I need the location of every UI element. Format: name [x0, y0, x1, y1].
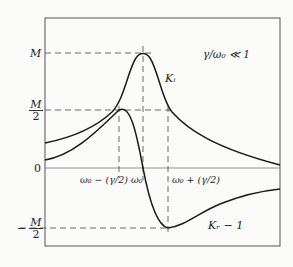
y-label-neg-sign: −	[17, 223, 26, 234]
resonance-diagram	[0, 0, 293, 267]
y-label-zero: 0	[34, 163, 41, 174]
y-label-m: M	[30, 48, 41, 59]
guide-lines	[20, 46, 175, 236]
ki-label: Kᵢ	[165, 73, 175, 84]
ki-curve	[45, 54, 280, 166]
x-label-center: ω₀	[131, 174, 143, 185]
kr-curve	[45, 109, 280, 228]
y-label-half-m: M 2	[29, 99, 43, 122]
x-label-right: ω₀ + (γ/2)	[172, 174, 220, 185]
x-label-left: ω₀ − (γ/2)	[80, 174, 128, 185]
y-label-neg-half-m: M 2	[29, 217, 43, 240]
condition-label: γ/ω₀ ≪ 1	[203, 49, 250, 60]
kr-label: Kᵣ − 1	[208, 220, 243, 231]
